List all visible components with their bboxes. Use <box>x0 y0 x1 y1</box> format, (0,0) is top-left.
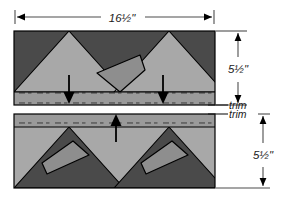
top-height-label: 5½" <box>228 63 249 75</box>
bottom-height-label: 5½" <box>253 149 274 161</box>
trim-label-bottom: trim <box>229 108 247 120</box>
top-panel <box>14 31 224 105</box>
bottom-panel <box>14 114 224 188</box>
top-panel-contents <box>14 31 224 105</box>
width-label: 16½" <box>109 12 136 24</box>
top-panel-seam-strip <box>14 92 215 105</box>
figure-root: 16½" <box>0 0 282 200</box>
quilt-diagram: 16½" <box>0 0 282 200</box>
